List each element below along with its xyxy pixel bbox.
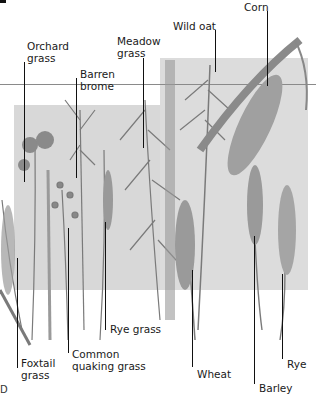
leader-wheat	[192, 270, 193, 367]
label-wild-oat: Wild oat	[173, 20, 216, 32]
label-foxtail-grass: Foxtail grass	[21, 357, 55, 381]
leader-barley	[254, 236, 255, 384]
rye-plant	[278, 185, 296, 340]
rye-grass-plant	[100, 150, 113, 340]
label-rye-grass: Rye grass	[110, 323, 161, 335]
leader-rye-grass	[105, 222, 106, 330]
foxtail-grass-plant	[0, 200, 30, 345]
corn-plant	[200, 40, 307, 182]
grasses-diagram: Orchard grass Barren brome Meadow grass …	[0, 0, 316, 398]
label-orchard-grass: Orchard grass	[27, 40, 69, 64]
leader-rye	[282, 274, 283, 359]
leader-barren-brome	[76, 78, 77, 178]
label-corn: Corn	[244, 1, 269, 13]
leader-meadow-grass	[143, 58, 144, 148]
leader-corn	[267, 11, 268, 86]
stray-mark: D	[0, 384, 8, 395]
label-common-quaking-grass: Common quaking grass	[72, 348, 146, 372]
label-rye: Rye	[287, 358, 306, 370]
label-wheat: Wheat	[197, 368, 231, 380]
barley-plant	[247, 165, 263, 330]
leader-common-quaking-grass	[68, 228, 69, 353]
label-barren-brome: Barren brome	[80, 68, 115, 92]
leader-orchard-grass	[24, 62, 25, 182]
label-meadow-grass: Meadow grass	[117, 35, 161, 59]
barren-brome-plant	[65, 100, 95, 330]
leader-wild-oat	[215, 30, 216, 72]
meadow-grass-plant	[120, 100, 185, 320]
common-quaking-grass-plant	[52, 182, 78, 340]
leader-foxtail-grass	[17, 258, 18, 368]
label-barley: Barley	[259, 382, 293, 394]
wild-oat-plant	[165, 60, 230, 330]
